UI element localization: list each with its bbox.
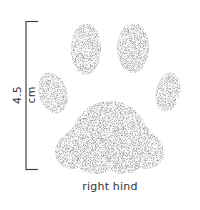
toe-outer-right-pad (152, 70, 184, 114)
toe-top-left-pad (71, 23, 101, 75)
scale-bar-label: 4.5 cm (11, 79, 25, 111)
paw-print-illustration (0, 0, 200, 210)
paw-print-diagram: 4.5 cm right hind (0, 0, 200, 210)
toe-inner-left-pad (33, 69, 73, 118)
toe-top-right-pad (117, 23, 149, 73)
main-pad (55, 101, 164, 174)
figure-caption: right hind (0, 180, 200, 193)
paw-pads (33, 23, 184, 174)
